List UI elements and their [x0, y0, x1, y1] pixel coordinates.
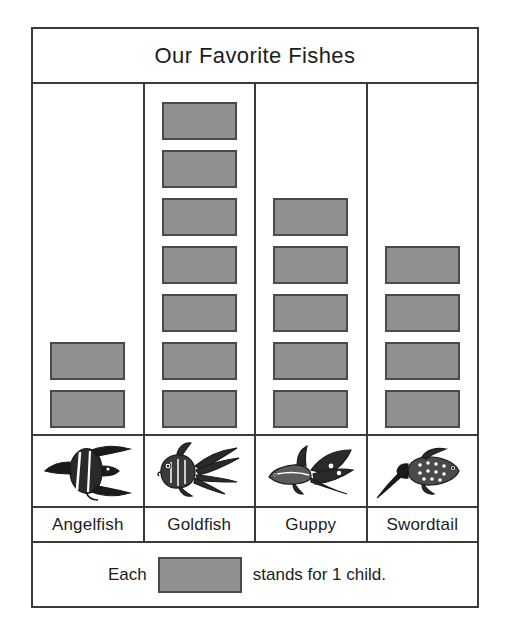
swordtail-icon: [374, 440, 470, 502]
picture-cell-guppy: [256, 436, 368, 506]
chart-title-row: Our Favorite Fishes: [33, 29, 477, 84]
category-label-row: Angelfish Goldfish Guppy Swordtail: [33, 508, 477, 543]
symbol-goldfish-4: [162, 246, 237, 284]
picture-cell-goldfish: [145, 436, 257, 506]
picture-cell-swordtail: [368, 436, 478, 506]
symbol-swordtail-1: [385, 246, 460, 284]
symbol-goldfish-5: [162, 294, 237, 332]
category-label-guppy: Guppy: [285, 515, 336, 535]
label-cell-angelfish: Angelfish: [33, 508, 145, 541]
column-guppy: [256, 84, 368, 434]
fish-illustration-row: [33, 436, 477, 508]
page-title: Our Favorite Fishes: [155, 43, 356, 69]
legend-suffix-text: stands for 1 child.: [253, 565, 386, 585]
symbol-guppy-3: [273, 294, 348, 332]
symbol-goldfish-6: [162, 342, 237, 380]
legend-key: Each stands for 1 child.: [108, 557, 386, 593]
label-cell-swordtail: Swordtail: [368, 508, 478, 541]
pictograph-frame: Our Favorite Fishes: [31, 27, 479, 608]
category-label-swordtail: Swordtail: [386, 515, 458, 535]
label-cell-goldfish: Goldfish: [145, 508, 257, 541]
symbol-goldfish-2: [162, 150, 237, 188]
symbol-swordtail-2: [385, 294, 460, 332]
column-swordtail: [368, 84, 478, 434]
label-cell-guppy: Guppy: [256, 508, 368, 541]
symbol-guppy-4: [273, 342, 348, 380]
symbol-goldfish-1: [162, 102, 237, 140]
goldfish-icon: [151, 440, 247, 502]
legend-symbol-swatch: [158, 557, 242, 593]
legend-prefix-text: Each: [108, 565, 147, 585]
pictograph-plot-area: [33, 84, 477, 436]
symbol-guppy-2: [273, 246, 348, 284]
symbol-goldfish-7: [162, 390, 237, 428]
legend-row: Each stands for 1 child.: [33, 543, 477, 606]
symbol-swordtail-4: [385, 390, 460, 428]
symbol-swordtail-3: [385, 342, 460, 380]
symbol-guppy-5: [273, 390, 348, 428]
angelfish-icon: [40, 440, 136, 502]
guppy-icon: [263, 440, 359, 502]
symbol-angelfish-2: [50, 390, 125, 428]
symbol-guppy-1: [273, 198, 348, 236]
category-label-angelfish: Angelfish: [52, 515, 124, 535]
column-goldfish: [145, 84, 257, 434]
column-angelfish: [33, 84, 145, 434]
symbol-goldfish-3: [162, 198, 237, 236]
category-label-goldfish: Goldfish: [167, 515, 231, 535]
picture-cell-angelfish: [33, 436, 145, 506]
symbol-angelfish-1: [50, 342, 125, 380]
